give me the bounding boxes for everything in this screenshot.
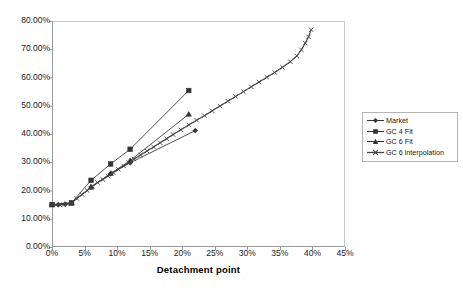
x-axis-tick-label: 0% [46, 249, 58, 258]
legend-item-label: Market [385, 116, 408, 125]
x-axis-tick-label: 35% [271, 249, 288, 258]
legend-item-label: GC 6 interpolation [385, 148, 444, 157]
x-axis-tick-label: 40% [304, 249, 321, 258]
chart-figure: 0.00%10.00%20.00%30.00%40.00%50.00%60.00… [0, 0, 463, 293]
x-axis-tick-label: 25% [206, 249, 223, 258]
y-axis-tick-label: 10.00% [2, 214, 50, 223]
triangle-marker-icon [366, 137, 385, 146]
y-axis-tick-label: 50.00% [2, 101, 50, 110]
x-axis-title: Detachment point [52, 264, 345, 275]
square-marker-icon [366, 127, 385, 136]
x-axis-tick-label: 20% [174, 249, 191, 258]
x-axis-tick-label: 10% [109, 249, 126, 258]
x-axis-tick-label: 30% [239, 249, 256, 258]
y-axis-tick-label: 60.00% [2, 73, 50, 82]
x-axis-tick-label: 15% [141, 249, 158, 258]
x-axis-tick-label: 45% [336, 249, 353, 258]
legend-item-label: GC 4 Fit [385, 127, 413, 136]
legend-item: GC 6 Fit [366, 137, 454, 147]
diamond-marker-icon [366, 116, 385, 125]
legend-item: GC 6 interpolation [366, 148, 454, 158]
y-axis-tick-label: 30.00% [2, 157, 50, 166]
y-axis-tick-label: 20.00% [2, 186, 50, 195]
plot-area [52, 21, 345, 247]
y-axis-tick-label: 70.00% [2, 44, 50, 53]
legend-item: Market [366, 116, 454, 126]
cross-marker-icon [366, 148, 385, 157]
legend-item: GC 4 Fit [366, 127, 454, 137]
legend-item-label: GC 6 Fit [385, 137, 413, 146]
x-axis-tick-label: 5% [78, 249, 90, 258]
y-axis-tick-label: 40.00% [2, 129, 50, 138]
x-axis-tick-labels: 0%5%10%15%20%25%30%35%40%45% [0, 249, 463, 263]
chart-legend: MarketGC 4 FitGC 6 FitGC 6 interpolation [362, 112, 458, 162]
y-axis-tick-label: 80.00% [2, 16, 50, 25]
